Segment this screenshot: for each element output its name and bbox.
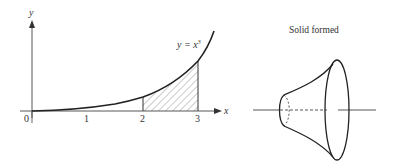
tick-label-1: 1 bbox=[84, 113, 89, 124]
solid-panel: Solid formed bbox=[253, 25, 376, 160]
x-axis-label: x bbox=[223, 105, 229, 116]
graph-panel: y x 0 1 2 3 y = x3 bbox=[20, 7, 229, 124]
y-axis-label: y bbox=[28, 7, 34, 18]
solid-title: Solid formed bbox=[289, 25, 339, 35]
tick-label-2: 2 bbox=[140, 113, 145, 124]
tick-label-3: 3 bbox=[195, 113, 200, 124]
small-end-back-dashed bbox=[284, 95, 289, 126]
origin-label: 0 bbox=[24, 113, 29, 124]
curve-label: y = x3 bbox=[176, 39, 201, 50]
small-end-front bbox=[280, 95, 285, 126]
curve-label-base: y = x bbox=[176, 39, 198, 50]
diagram-canvas: y x 0 1 2 3 y = x3 Solid formed bbox=[0, 0, 394, 161]
x-axis-arrow-icon bbox=[214, 108, 222, 114]
y-axis-arrow-icon bbox=[29, 20, 35, 28]
curve-label-exponent: 3 bbox=[197, 39, 201, 45]
